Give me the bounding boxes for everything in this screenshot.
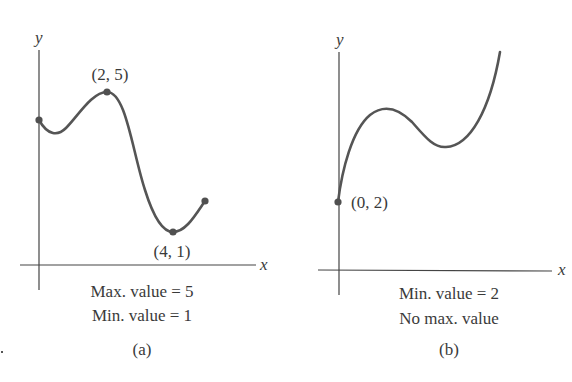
panel-b-x-axis	[318, 270, 552, 271]
panel-a-line-1: Max. value = 5	[90, 282, 193, 302]
panel-b-x-label: x	[558, 260, 566, 280]
panel-a-y-label: y	[35, 28, 43, 48]
panel-b-line-2: No max. value	[399, 309, 499, 329]
panel-a-line-2: Min. value = 1	[92, 306, 192, 326]
panel-a-max-label: (2, 5)	[92, 65, 129, 85]
panel-a-start-point	[35, 116, 42, 123]
panel-a-min-point	[169, 228, 176, 235]
panel-b-line-1: Min. value = 2	[399, 284, 499, 304]
panel-a-end-point	[201, 197, 208, 204]
panel-a-min-label: (4, 1)	[154, 242, 191, 262]
panel-a-curve	[39, 92, 205, 232]
panel-b-y-label: y	[336, 30, 344, 50]
panel-b-min-label: (0, 2)	[351, 193, 388, 213]
panel-a-x-label: x	[260, 255, 268, 275]
stray-mark	[1, 351, 3, 353]
panel-a-caption: (a)	[133, 340, 152, 360]
panel-b-curve	[338, 52, 500, 202]
panel-a-max-point	[103, 88, 110, 95]
panel-b-min-point	[334, 198, 341, 205]
panel-b-caption: (b)	[439, 340, 459, 360]
panel-b-axes	[318, 52, 552, 295]
